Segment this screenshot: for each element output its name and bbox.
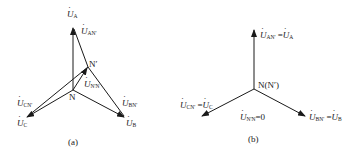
label-unn: UN'N — [84, 80, 99, 90]
node-n: N — [69, 92, 76, 102]
phasor-uc — [27, 90, 73, 117]
label-ubn-eq-ub: UBN' =UB — [309, 113, 342, 123]
phasor-ubn — [88, 67, 124, 116]
label-uan: UAN' — [81, 27, 96, 37]
caption-a: (a) — [68, 137, 78, 147]
caption-b: (b) — [248, 134, 259, 144]
label-unn-zero: UN'N=0 — [240, 113, 265, 123]
phasor-diagrams — [0, 0, 358, 157]
label-ucn-eq-uc: UCN' =UC — [180, 101, 213, 111]
diagram-a — [27, 28, 124, 117]
label-ua: UA — [67, 10, 77, 20]
diagram-b — [202, 30, 305, 116]
node-n-prime: N′ — [89, 59, 97, 69]
label-ucn: UCN' — [17, 99, 32, 109]
label-ubn: UBN' — [122, 99, 137, 109]
phasor-ub — [73, 90, 124, 117]
label-uan-eq-ua: UAN' =UA — [260, 31, 293, 41]
label-ub: UB — [126, 119, 136, 129]
label-uc: UC — [17, 119, 27, 129]
node-n-n-prime: N(N′) — [258, 80, 279, 90]
phasor-ucn — [28, 67, 88, 116]
